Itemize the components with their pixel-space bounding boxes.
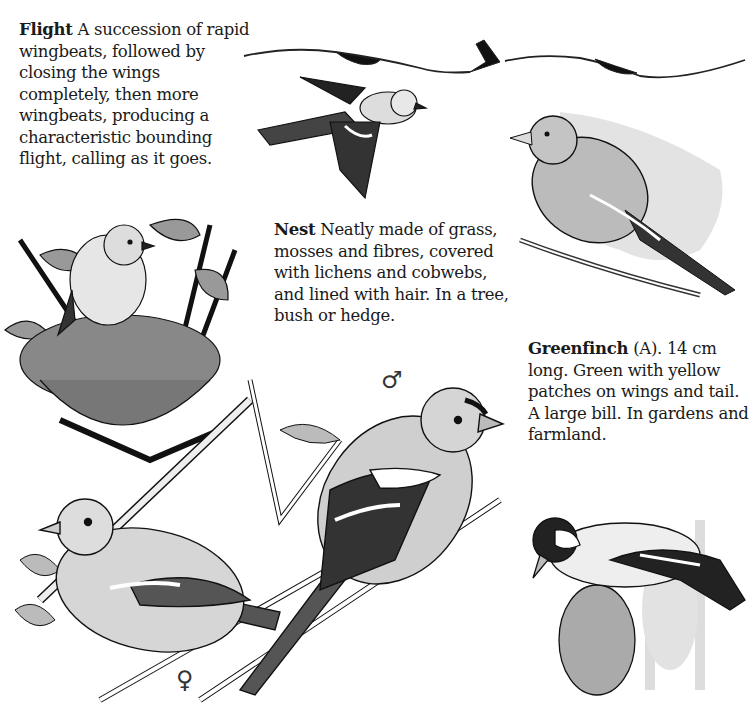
greenfinch-illustration xyxy=(510,112,735,295)
nest-heading: Nest xyxy=(274,220,315,239)
flight-description: Flight A succession of rapid wingbeats, … xyxy=(19,19,254,170)
male-symbol-icon: ♂ xyxy=(381,368,403,392)
male-chaffinch-illustration xyxy=(240,386,504,695)
flight-path-illustration xyxy=(244,40,745,77)
flight-body: A succession of rapid wingbeats, followe… xyxy=(19,20,249,168)
nest-illustration xyxy=(5,219,235,460)
flying-chaffinch-illustration xyxy=(258,77,426,198)
greenfinch-description: Greenfinch (A). 14 cm long. Green with y… xyxy=(528,338,749,446)
goldfinch-illustration xyxy=(533,518,745,695)
nest-description: Nest Neatly made of grass, mosses and fi… xyxy=(274,219,509,327)
flight-heading: Flight xyxy=(19,20,73,39)
female-symbol-icon: ♀ xyxy=(176,668,194,692)
greenfinch-heading: Greenfinch xyxy=(528,339,628,358)
female-chaffinch-illustration xyxy=(40,499,280,668)
